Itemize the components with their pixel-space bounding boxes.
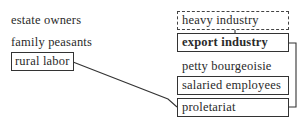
- node-family-peasants: family peasants: [8, 34, 92, 50]
- rural-labor-to-proletariat-line: [73, 62, 177, 107]
- node-salaried-employees: salaried employees: [177, 76, 289, 95]
- node-heavy-industry: heavy industry: [177, 11, 289, 30]
- node-petty-bourgeoisie: petty bourgeoisie: [178, 58, 272, 74]
- node-estate-owners: estate owners: [8, 12, 81, 28]
- node-proletariat: proletariat: [177, 98, 289, 117]
- export-to-proletariat-bracket: [289, 43, 296, 107]
- node-export-industry: export industry: [177, 33, 289, 52]
- node-rural-labor: rural labor: [11, 52, 74, 71]
